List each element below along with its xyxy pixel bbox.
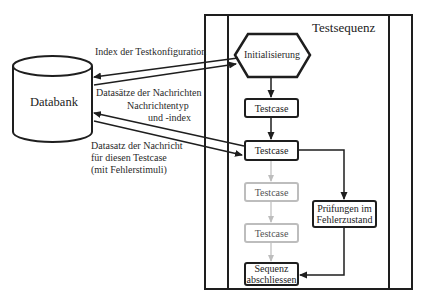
init-node-label: Initialisierung — [244, 49, 300, 61]
sequence-title: Testsequenz — [312, 20, 375, 36]
testcase-node-3-label: Testcase — [255, 187, 289, 198]
error-checks-label-1: Prüfungen im — [317, 203, 372, 214]
error-checks-label-2: Fehlerzustand — [316, 214, 372, 225]
edge-label-msg-record-3: (mit Fehlerstimuli) — [91, 164, 167, 176]
testcase-node-1: Testcase — [244, 98, 299, 118]
end-sequence-label-2: abschliessen — [247, 274, 297, 285]
testcase-node-4: Testcase — [244, 223, 299, 243]
edge-label-message-records: Datasätze der Nachrichten — [96, 87, 202, 99]
edge-label-msg-type-2: und -index — [148, 112, 191, 124]
testcase-node-1-label: Testcase — [255, 103, 289, 114]
edge-label-config-index: Index der Testkonfiguration — [95, 46, 206, 58]
edge-label-msg-type-1: Nachrichtentyp — [127, 100, 189, 112]
testcase-node-2: Testcase — [244, 140, 299, 161]
testcase-node-4-label: Testcase — [255, 228, 289, 239]
testcase-node-3: Testcase — [244, 182, 299, 202]
diagram-canvas — [0, 0, 426, 299]
error-checks-node: Prüfungen im Fehlerzustand — [312, 200, 377, 228]
end-sequence-label-1: Sequenz — [255, 263, 289, 274]
testcase-node-2-label: Testcase — [255, 145, 289, 156]
edge-label-msg-record-1: Datasatz der Nachricht — [91, 140, 183, 152]
end-sequence-node: Sequenz abschliessen — [244, 262, 299, 286]
edge-label-msg-record-2: für diesen Testcase — [91, 152, 167, 164]
database-label: Databank — [30, 95, 78, 110]
